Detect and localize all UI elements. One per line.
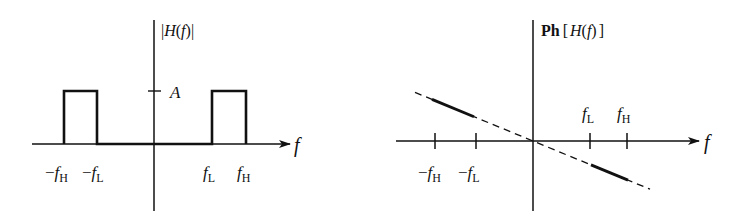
phase-tick-label-neg-fl: −fL: [458, 163, 480, 185]
phase-tick-label-fl: fL: [582, 104, 594, 126]
magnitude-plot: A |H(f)| f −fH −fL fL fH: [32, 20, 302, 211]
magnitude-y-label: |H(f)|: [161, 22, 194, 40]
phase-tick-label-neg-fh: −fH: [418, 163, 441, 185]
magnitude-response-curve: [64, 91, 246, 144]
magnitude-tick-fh: fH: [237, 163, 251, 185]
phase-passband-positive: [591, 165, 628, 180]
phase-tick-label-fh: fH: [617, 104, 631, 126]
phase-y-label: Ph[H(f)]: [541, 22, 604, 40]
phase-passband-negative: [432, 99, 474, 116]
magnitude-x-label: f: [294, 134, 302, 157]
level-a-label: A: [169, 83, 181, 102]
figure-canvas: A |H(f)| f −fH −fL fL fH: [0, 0, 743, 223]
magnitude-tick-fl: fL: [203, 163, 215, 185]
phase-plot: Ph[H(f)] f −fH −fL fL fH: [396, 20, 712, 211]
phase-x-label: f: [704, 131, 712, 154]
magnitude-tick-neg-fl: −fL: [82, 163, 104, 185]
magnitude-tick-neg-fh: −fH: [45, 163, 68, 185]
